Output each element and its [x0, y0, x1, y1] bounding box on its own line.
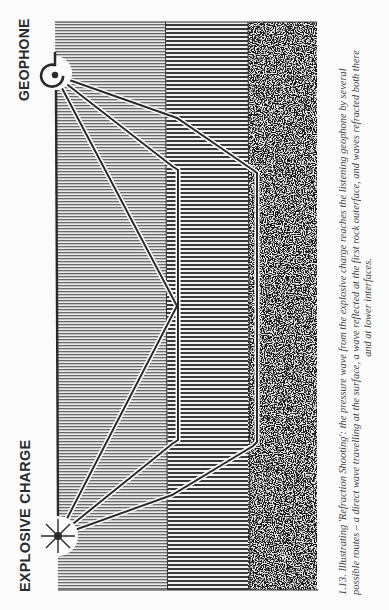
- geophone-label: GEOPHONE: [16, 18, 32, 101]
- caption-line-2: possible routes – a direct wave travelli…: [350, 20, 363, 595]
- refraction-shooting-diagram: [0, 0, 389, 610]
- explosive-charge-icon: [38, 516, 78, 556]
- figure-caption: 1.13. Illustrating 'Refraction Shooting'…: [337, 20, 375, 595]
- explosive-charge-label: EXPLOSIVE CHARGE: [17, 440, 33, 592]
- caption-line-1: 1.13. Illustrating 'Refraction Shooting'…: [337, 20, 350, 595]
- caption-line-3: and at lower interfaces.: [362, 20, 375, 595]
